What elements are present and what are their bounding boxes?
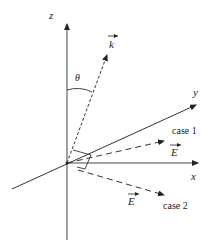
case-1-label: case 1 bbox=[172, 125, 197, 136]
e1-label: E bbox=[170, 146, 178, 158]
y-axis bbox=[12, 105, 196, 189]
case-2-label: case 2 bbox=[163, 200, 188, 211]
theta-label: θ bbox=[75, 72, 80, 83]
z-axis-label: z bbox=[48, 9, 54, 21]
x-axis-label: x bbox=[190, 170, 196, 182]
y-axis-label: y bbox=[192, 86, 198, 98]
theta-arc bbox=[67, 88, 92, 92]
wave-vector-k bbox=[67, 55, 107, 163]
e2-label: E bbox=[127, 195, 135, 207]
k-label: k bbox=[109, 38, 115, 50]
diagram-canvas: z y x k θ case 1 E E case 2 bbox=[0, 0, 209, 250]
origin-point bbox=[66, 162, 69, 165]
field-vector-case-2 bbox=[78, 170, 164, 195]
